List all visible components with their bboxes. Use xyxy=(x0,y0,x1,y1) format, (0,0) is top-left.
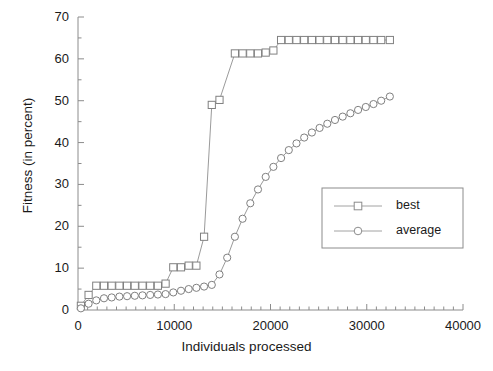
data-point-square xyxy=(85,291,92,298)
data-point-circle xyxy=(93,297,100,304)
data-point-square xyxy=(108,282,115,289)
data-point-square xyxy=(362,36,369,43)
data-point-square xyxy=(324,36,331,43)
data-point-square xyxy=(339,36,346,43)
data-point-circle xyxy=(308,129,315,136)
data-point-square xyxy=(293,36,300,43)
data-point-square xyxy=(239,50,246,57)
x-tick-label: 10000 xyxy=(139,318,209,333)
data-point-square xyxy=(354,202,362,210)
data-point-circle xyxy=(262,173,269,180)
data-point-circle xyxy=(270,163,277,170)
series-best xyxy=(77,36,393,309)
data-point-circle xyxy=(77,305,84,312)
data-point-circle xyxy=(354,227,362,235)
data-point-square xyxy=(386,36,393,43)
x-axis-title: Individuals processed xyxy=(0,339,493,354)
data-point-circle xyxy=(293,140,300,147)
data-point-square xyxy=(378,36,385,43)
y-tick-label: 60 xyxy=(29,51,69,66)
x-tick-label: 30000 xyxy=(332,318,402,333)
data-point-square xyxy=(285,36,292,43)
data-point-circle xyxy=(370,100,377,107)
data-point-circle xyxy=(139,292,146,299)
data-point-square xyxy=(116,282,123,289)
data-point-square xyxy=(100,282,107,289)
x-tick-label: 20000 xyxy=(236,318,306,333)
data-point-circle xyxy=(378,97,385,104)
series-line-best xyxy=(81,40,390,306)
x-tick-label: 40000 xyxy=(428,318,493,333)
data-point-square xyxy=(193,262,200,269)
data-point-circle xyxy=(224,254,231,261)
data-point-square xyxy=(154,282,161,289)
data-point-circle xyxy=(285,147,292,154)
data-point-square xyxy=(301,36,308,43)
data-point-square xyxy=(370,36,377,43)
data-point-square xyxy=(308,36,315,43)
legend-layer xyxy=(322,188,463,248)
data-point-square xyxy=(316,36,323,43)
y-tick-label: 40 xyxy=(29,135,69,150)
data-point-circle xyxy=(177,287,184,294)
data-point-circle xyxy=(247,200,254,207)
legend-label-average: average xyxy=(396,223,441,237)
data-point-circle xyxy=(116,293,123,300)
data-point-circle xyxy=(277,154,284,161)
data-point-circle xyxy=(108,294,115,301)
data-point-square xyxy=(216,96,223,103)
data-point-circle xyxy=(324,120,331,127)
data-point-square xyxy=(331,36,338,43)
data-point-square xyxy=(208,101,215,108)
data-point-circle xyxy=(301,134,308,141)
data-point-square xyxy=(162,280,169,287)
data-point-square xyxy=(177,264,184,271)
data-point-square xyxy=(131,282,138,289)
data-point-square xyxy=(93,282,100,289)
data-point-square xyxy=(147,282,154,289)
data-point-circle xyxy=(354,106,361,113)
data-point-circle xyxy=(347,110,354,117)
data-point-circle xyxy=(254,186,261,193)
data-point-circle xyxy=(331,116,338,123)
data-point-square xyxy=(277,36,284,43)
data-point-square xyxy=(123,282,130,289)
data-point-circle xyxy=(200,283,207,290)
legend-box xyxy=(322,188,463,248)
data-point-square xyxy=(247,50,254,57)
data-point-circle xyxy=(316,124,323,131)
data-point-circle xyxy=(185,285,192,292)
legend-label-best: best xyxy=(396,198,420,212)
data-point-circle xyxy=(162,290,169,297)
y-tick-label: 30 xyxy=(29,176,69,191)
data-point-circle xyxy=(216,271,223,278)
y-tick-label: 50 xyxy=(29,93,69,108)
x-tick-label: 0 xyxy=(43,318,113,333)
y-axis-title: Fitness (in percent) xyxy=(20,66,35,246)
data-point-square xyxy=(262,49,269,56)
data-point-square xyxy=(231,50,238,57)
data-point-square xyxy=(354,36,361,43)
data-point-circle xyxy=(100,295,107,302)
axes-layer xyxy=(78,17,463,310)
data-point-square xyxy=(254,50,261,57)
y-tick-label: 10 xyxy=(29,260,69,275)
data-point-circle xyxy=(154,291,161,298)
data-point-circle xyxy=(147,291,154,298)
fitness-line-chart: 010203040506070 010000200003000040000 In… xyxy=(0,0,493,371)
data-point-square xyxy=(200,233,207,240)
plot-canvas xyxy=(0,0,493,371)
data-point-circle xyxy=(123,293,130,300)
y-tick-label: 70 xyxy=(29,9,69,24)
data-point-circle xyxy=(239,215,246,222)
data-point-square xyxy=(185,262,192,269)
data-point-circle xyxy=(386,93,393,100)
data-point-circle xyxy=(208,281,215,288)
data-point-circle xyxy=(339,113,346,120)
data-point-square xyxy=(270,47,277,54)
data-point-circle xyxy=(231,233,238,240)
data-point-circle xyxy=(362,103,369,110)
data-point-circle xyxy=(193,284,200,291)
data-point-circle xyxy=(85,300,92,307)
data-point-square xyxy=(347,36,354,43)
